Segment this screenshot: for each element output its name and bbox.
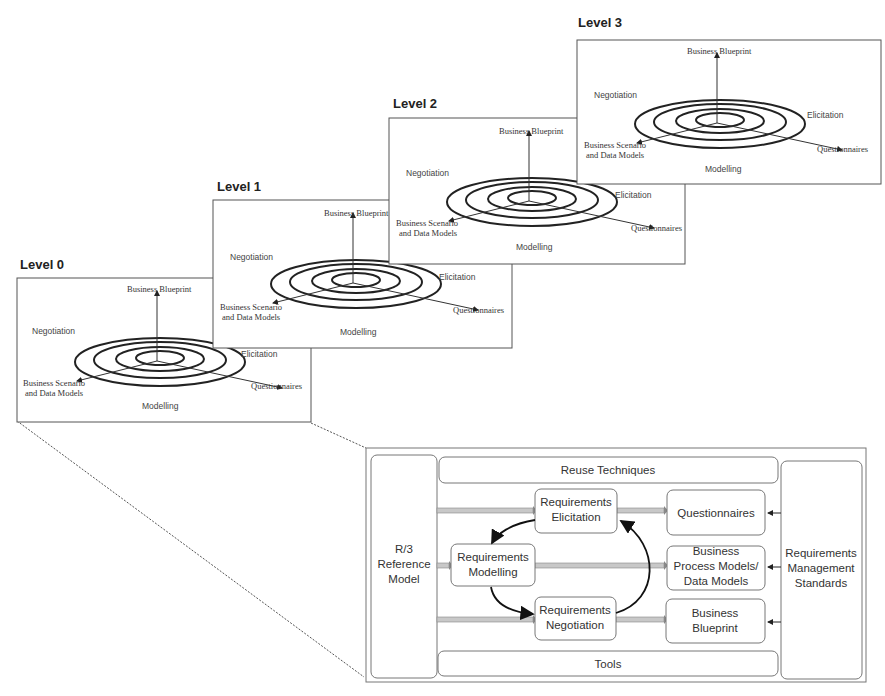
- projection-line-right: [311, 423, 366, 448]
- reuse-techniques-label: Reuse Techniques: [561, 464, 656, 476]
- label-negotiation: Negotiation: [406, 168, 449, 178]
- label-data-models: and Data Models: [399, 228, 457, 238]
- negotiation-line1: Requirements: [539, 604, 611, 616]
- label-negotiation: Negotiation: [230, 252, 273, 262]
- label-business-scenario: Business Scenario: [584, 140, 646, 150]
- label-business-blueprint: Business Blueprint: [127, 284, 192, 294]
- business-blueprint-box: [666, 599, 765, 643]
- label-negotiation: Negotiation: [32, 326, 75, 336]
- blueprint-line2: Blueprint: [692, 622, 738, 634]
- standards-label-line1: Requirements: [785, 547, 857, 559]
- standards-label-line2: Management: [787, 562, 855, 574]
- label-elicitation: Elicitation: [615, 190, 652, 200]
- label-modelling: Modelling: [705, 164, 742, 174]
- label-business-blueprint: Business Blueprint: [324, 208, 389, 218]
- label-business-scenario: Business Scenario: [220, 302, 282, 312]
- level-1-title: Level 1: [217, 179, 261, 194]
- r3-label-line3: Model: [388, 573, 419, 585]
- r3-label-line1: R/3: [395, 543, 413, 555]
- label-questionnaires: Questionnaires: [251, 381, 302, 391]
- label-questionnaires: Questionnaires: [817, 144, 868, 154]
- requirements-levels-diagram: Business Blueprint Negotiation Elicitati…: [0, 0, 885, 696]
- level-0-title: Level 0: [20, 257, 64, 272]
- modelling-line2: Modelling: [468, 566, 517, 578]
- level-3-title: Level 3: [578, 15, 622, 30]
- process-models-line2: Process Models/: [673, 560, 759, 572]
- label-modelling: Modelling: [516, 242, 553, 252]
- label-business-blueprint: Business Blueprint: [499, 126, 564, 136]
- label-elicitation: Elicitation: [807, 110, 844, 120]
- label-negotiation: Negotiation: [594, 90, 637, 100]
- label-data-models: and Data Models: [222, 312, 280, 322]
- blueprint-line1: Business: [692, 607, 739, 619]
- questionnaires-label: Questionnaires: [677, 507, 755, 519]
- level-3-panel: Business Blueprint Negotiation Elicitati…: [577, 40, 881, 184]
- label-business-scenario: Business Scenario: [396, 218, 458, 228]
- standards-label-line3: Standards: [795, 577, 848, 589]
- label-questionnaires: Questionnaires: [631, 223, 682, 233]
- elicitation-line2: Elicitation: [551, 511, 600, 523]
- label-elicitation: Elicitation: [439, 272, 476, 282]
- label-elicitation: Elicitation: [241, 349, 278, 359]
- label-business-scenario: Business Scenario: [23, 378, 85, 388]
- level-2-title: Level 2: [393, 96, 437, 111]
- label-data-models: and Data Models: [25, 388, 83, 398]
- framework-panel: R/3 Reference Model Reuse Techniques Too…: [366, 448, 866, 682]
- label-modelling: Modelling: [340, 327, 377, 337]
- r3-label-line2: Reference: [377, 558, 430, 570]
- process-models-line1: Business: [693, 545, 740, 557]
- modelling-line1: Requirements: [457, 551, 529, 563]
- projection-line-left: [17, 421, 364, 677]
- label-business-blueprint: Business Blueprint: [687, 46, 752, 56]
- tools-label: Tools: [595, 658, 622, 670]
- label-questionnaires: Questionnaires: [453, 305, 504, 315]
- negotiation-line2: Negotiation: [546, 619, 604, 631]
- process-models-line3: Data Models: [684, 575, 749, 587]
- elicitation-line1: Requirements: [540, 496, 612, 508]
- label-modelling: Modelling: [142, 401, 179, 411]
- label-data-models: and Data Models: [586, 150, 644, 160]
